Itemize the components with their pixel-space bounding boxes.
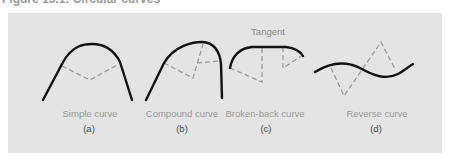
simple-curve-label: Simple curve [63, 108, 118, 119]
compound-curve-path [146, 42, 222, 100]
compound-curve-figure: Compound curve (b) [146, 42, 222, 134]
broken-back-curve-label: Broken-back curve [225, 108, 304, 119]
simple-curve-path [43, 44, 132, 100]
simple-curve-figure: Simple curve (a) [43, 44, 132, 134]
reverse-curve-path [315, 64, 413, 77]
compound-curve-label: Compound curve [146, 108, 218, 119]
reverse-curve-sublabel: (d) [370, 123, 382, 134]
compound-curve-radius-lines [164, 44, 220, 78]
reverse-curve-figure: Reverse curve (d) [315, 42, 413, 134]
tangent-annotation: Tangent [251, 26, 285, 37]
reverse-curve-label: Reverse curve [346, 108, 407, 119]
broken-back-curve-path [230, 47, 303, 68]
broken-back-curve-sublabel: (c) [260, 123, 271, 134]
broken-back-radius-lines [230, 47, 303, 82]
curves-diagram: Simple curve (a) Compound curve (b) Tang… [0, 0, 451, 163]
simple-curve-sublabel: (a) [83, 123, 95, 134]
broken-back-curve-figure: Tangent Broken-back curve (c) [225, 26, 304, 134]
simple-curve-radius-lines [62, 64, 119, 80]
compound-curve-sublabel: (b) [176, 123, 188, 134]
